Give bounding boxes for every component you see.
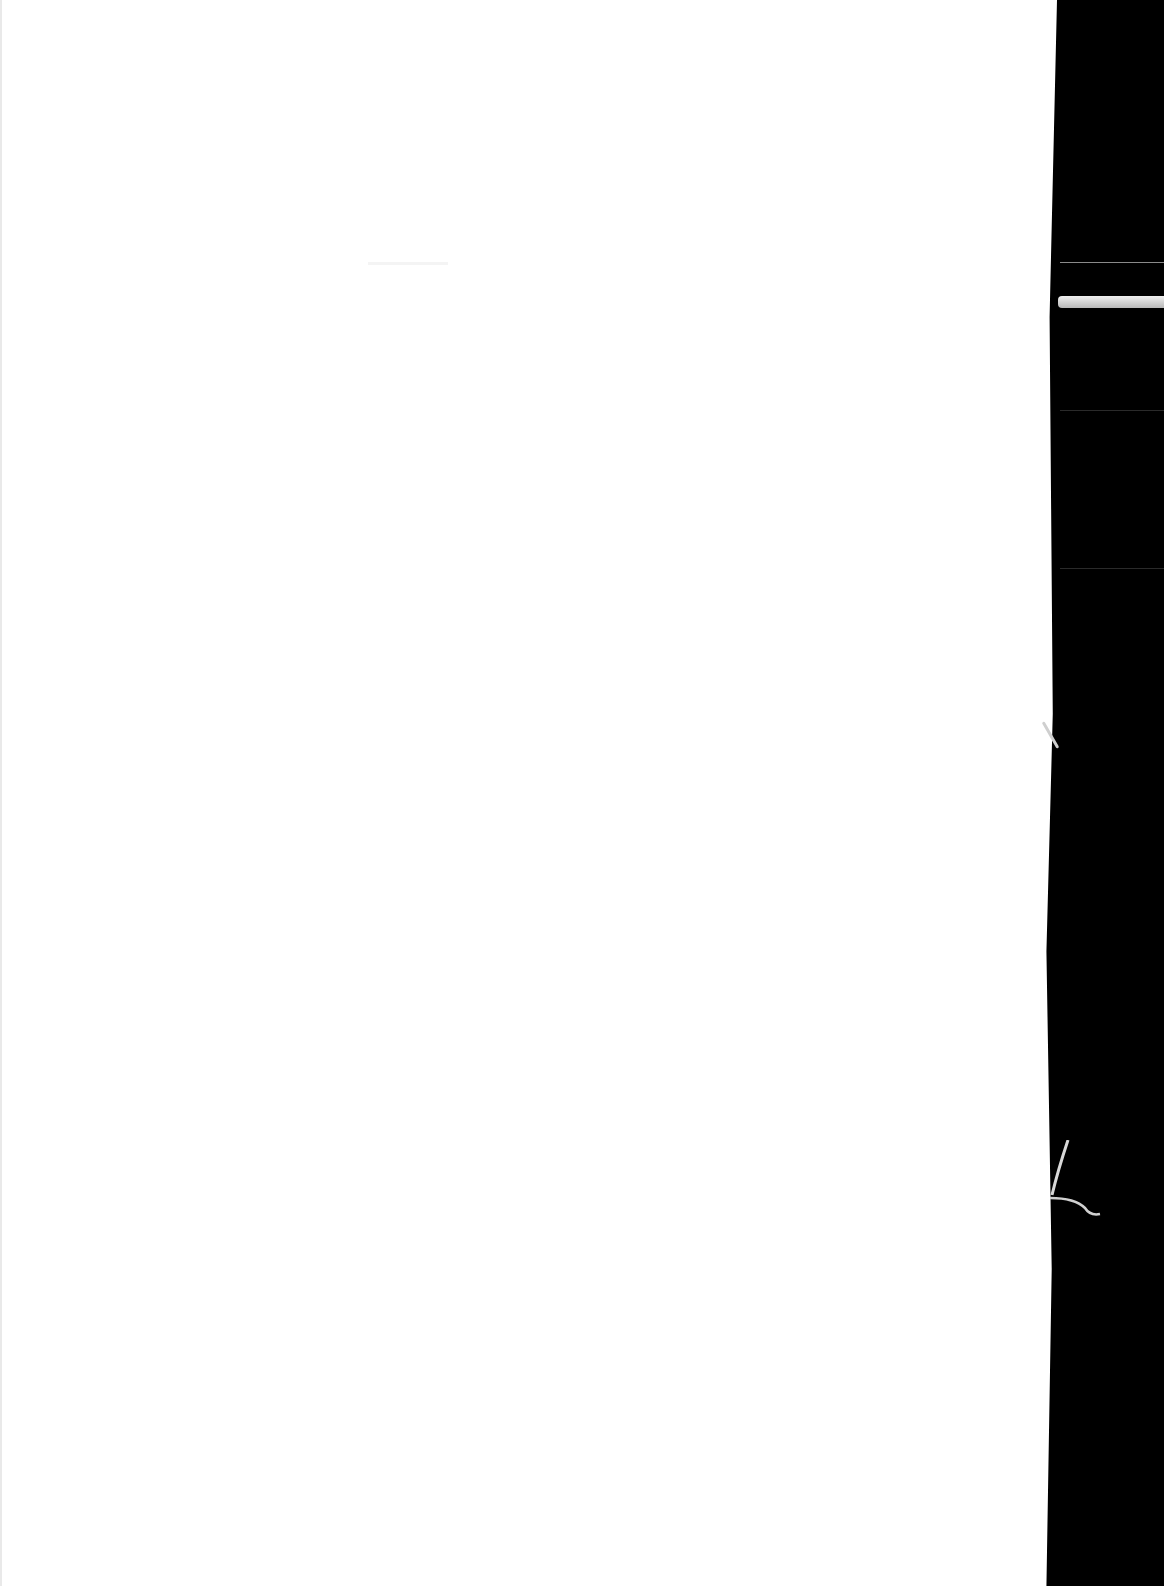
scanner-reflection-bar xyxy=(1058,296,1164,308)
page-edge xyxy=(0,0,2,1586)
scanner-line xyxy=(1060,568,1164,569)
fiber-artifact xyxy=(1050,1140,1110,1230)
faint-scan-artifact xyxy=(368,262,448,265)
scanner-bed-background xyxy=(1057,0,1164,1586)
blank-scanned-page xyxy=(0,0,1057,1586)
scanner-line xyxy=(1060,410,1164,411)
scanner-line xyxy=(1060,262,1164,263)
